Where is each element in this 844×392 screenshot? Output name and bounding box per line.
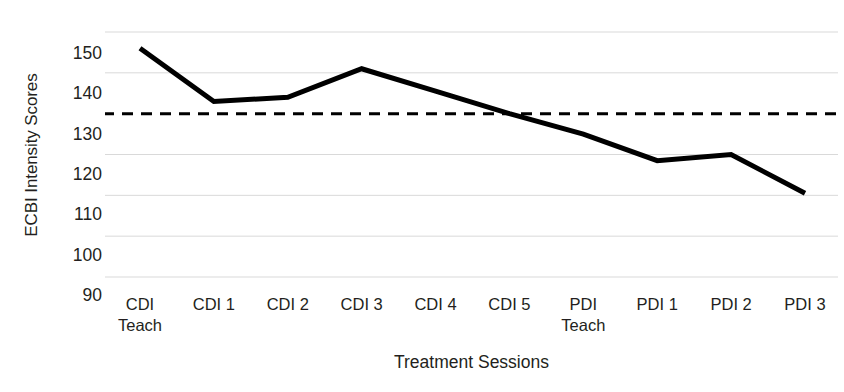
x-tick-label-line1: CDI 5 — [488, 295, 530, 313]
x-tick-label-line2: Teach — [118, 315, 162, 336]
x-tick-label: CDI 2 — [267, 294, 309, 315]
x-tick-label: PDITeach — [561, 294, 605, 336]
y-tick-label: 120 — [46, 166, 102, 184]
y-tick-label: 130 — [46, 126, 102, 144]
plot-svg — [105, 12, 838, 290]
x-tick-label: PDI 2 — [710, 294, 751, 315]
y-tick-label: 150 — [46, 45, 102, 63]
x-tick-label-line2: Teach — [561, 315, 605, 336]
y-tick-label: 110 — [46, 206, 102, 224]
x-tick-label: PDI 1 — [637, 294, 678, 315]
x-tick-label-line1: PDI 2 — [710, 295, 751, 313]
series-line — [140, 48, 805, 193]
x-tick-label: CDITeach — [118, 294, 162, 336]
x-tick-label-line1: CDI 3 — [341, 295, 383, 313]
y-tick-label: 140 — [46, 85, 102, 103]
y-tick-label: 100 — [46, 247, 102, 265]
x-tick-label-line1: CDI 2 — [267, 295, 309, 313]
x-tick-label-line1: PDI — [570, 295, 598, 313]
x-axis-title: Treatment Sessions — [105, 352, 838, 373]
data-series-line — [140, 48, 805, 193]
y-axis-tick-labels: 150 140 130 120 110 100 90 — [46, 20, 102, 290]
plot-area — [105, 12, 838, 290]
x-tick-label-line1: CDI 4 — [414, 295, 456, 313]
x-axis-tick-labels: CDITeachCDI 1CDI 2CDI 3CDI 4CDI 5PDITeac… — [105, 294, 838, 346]
y-tick-label: 90 — [46, 287, 102, 305]
x-tick-label-line1: PDI 3 — [784, 295, 825, 313]
y-axis-title: ECBI Intensity Scores — [22, 10, 46, 300]
x-tick-label: CDI 3 — [341, 294, 383, 315]
x-tick-label: CDI 1 — [193, 294, 235, 315]
ecbi-intensity-line-chart: ECBI Intensity Scores 150 140 130 120 11… — [0, 0, 844, 392]
x-tick-label-line1: CDI — [126, 295, 154, 313]
x-tick-label: CDI 4 — [414, 294, 456, 315]
x-tick-label-line1: PDI 1 — [637, 295, 678, 313]
x-tick-label: CDI 5 — [488, 294, 530, 315]
x-tick-label-line1: CDI 1 — [193, 295, 235, 313]
x-tick-label: PDI 3 — [784, 294, 825, 315]
